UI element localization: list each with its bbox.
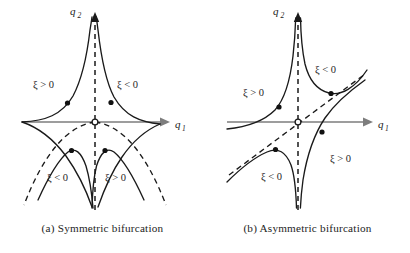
plot-a: q 2 q 1 ξ > 0 ξ < 0 ξ < 0 ξ > 0 [0, 0, 205, 215]
branch-upper-left-b [227, 18, 296, 129]
region-label-upper-left-b: ξ > 0 [243, 87, 264, 99]
marker-dot [108, 100, 113, 105]
q2-axis-a [91, 12, 99, 210]
branch-lower-right-b [300, 80, 365, 208]
panel-asymmetric-bifurcation: q 2 q 1 ξ > 0 ξ < 0 ξ < 0 ξ > 0 (b) Asym… [205, 0, 410, 253]
region-label-lower-left-b: ξ < 0 [261, 171, 282, 183]
panel-symmetric-bifurcation: q 2 q 1 ξ > 0 ξ < 0 ξ < 0 ξ > 0 (a) Symm… [0, 0, 205, 253]
q1-label-b: q [378, 118, 384, 130]
bifurcation-figure: q 2 q 1 ξ > 0 ξ < 0 ξ < 0 ξ > 0 (a) Symm… [0, 0, 410, 253]
marker-dot [328, 91, 333, 96]
q1-label-a: q [175, 118, 181, 130]
q2-axis-label-b: q 2 [273, 5, 285, 20]
region-label-lower-right-a: ξ > 0 [105, 172, 126, 184]
caption-b: (b) Asymmetric bifurcation [205, 222, 410, 234]
marker-dot [276, 104, 281, 109]
caption-a: (a) Symmetric bifurcation [0, 222, 205, 234]
q1-axis-label-b: q 1 [378, 118, 389, 133]
marker-dot [319, 129, 324, 134]
q2-label-b: q [273, 5, 279, 17]
marker-dot [69, 148, 74, 153]
region-label-upper-right-a: ξ < 0 [117, 79, 138, 91]
origin-marker-b [295, 119, 301, 125]
marker-dot [65, 100, 70, 105]
separatrix-right-a [95, 122, 166, 205]
plot-b: q 2 q 1 ξ > 0 ξ < 0 ξ < 0 ξ > 0 [205, 0, 410, 215]
q1-label-sub-a: 1 [182, 124, 186, 133]
marker-dot [273, 147, 278, 152]
branch-upper-right-b [301, 18, 368, 94]
branch-upper-right-a [96, 17, 160, 124]
branch-outer-lower-right-a [98, 124, 160, 207]
q1-axis-label-a: q 1 [175, 118, 186, 133]
region-label-upper-left-a: ξ > 0 [33, 79, 54, 91]
region-label-lower-right-b: ξ > 0 [330, 153, 351, 165]
q1-label-sub-b: 1 [385, 124, 389, 133]
q2-axis-label-a: q 2 [70, 5, 82, 20]
q2-label-sub-a: 2 [78, 11, 82, 20]
origin-marker-a [92, 119, 98, 125]
marker-dot [102, 148, 107, 153]
region-label-upper-right-b: ξ < 0 [315, 64, 336, 76]
q2-label-sub-b: 2 [281, 11, 285, 20]
branch-upper-left-a [22, 17, 92, 122]
region-label-lower-left-a: ξ < 0 [47, 172, 68, 184]
q2-label-a: q [70, 5, 76, 17]
